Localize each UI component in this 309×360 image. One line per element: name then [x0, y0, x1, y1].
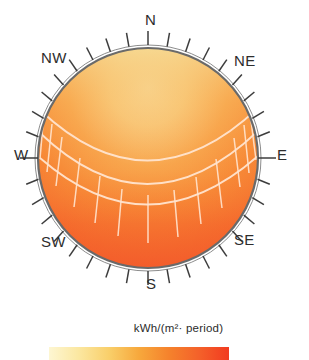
legend: kWh/(m²· period): [0, 322, 309, 360]
compass-diagram: N NE E SE S SW W NW: [0, 0, 309, 310]
compass-label-west: W: [14, 147, 28, 162]
legend-colorbar: [49, 347, 229, 360]
compass-label-southwest: SW: [41, 234, 66, 249]
compass-label-south: S: [146, 276, 156, 291]
legend-title: kWh/(m²· period): [0, 322, 309, 334]
compass-label-northwest: NW: [41, 50, 67, 65]
compass-label-southeast: SE: [234, 232, 255, 247]
compass-label-northeast: NE: [234, 53, 255, 68]
compass-label-east: E: [277, 147, 287, 162]
sun-path-figure: N NE E SE S SW W NW kWh/(m²· period): [0, 0, 309, 360]
compass-label-north: N: [145, 12, 156, 27]
sky-dome-svg: [0, 0, 309, 310]
